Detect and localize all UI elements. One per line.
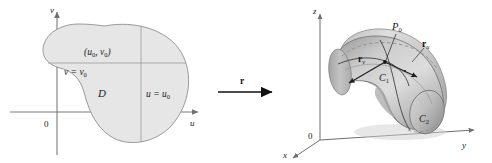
curve-C1-sub: 1 <box>386 77 389 84</box>
v-constant-text: v = v <box>64 67 84 77</box>
x-axis <box>293 140 320 158</box>
x-axis-label: x <box>282 150 287 160</box>
mapping-arrow-label: r <box>240 76 245 86</box>
svg-text:ru: ru <box>422 39 430 50</box>
tangent-rv-sub: v <box>362 58 365 65</box>
curve-C2-sub: 2 <box>426 118 429 125</box>
v-axis-label: v <box>50 5 54 15</box>
v-equals-v0-label: v = v0 <box>64 67 87 78</box>
region-D-shape <box>43 24 189 143</box>
point-P0-sub: 0 <box>398 26 401 33</box>
point-label-close: ) <box>106 47 110 58</box>
tangent-ru-sub: u <box>426 43 430 50</box>
mapping-arrow-group: r <box>218 76 272 92</box>
u-equals-u0-label: u = u0 <box>146 89 170 100</box>
right-origin-label: 0 <box>308 131 313 141</box>
surface-parametrization-figure: v u 0 (u0, v0) v = v0 D u = u0 <box>0 0 492 163</box>
z-axis-label: z <box>312 6 317 16</box>
right-panel-xyz-space: z y x 0 P0 rv ru <box>282 6 474 160</box>
left-panel-uv-plane: v u 0 (u0, v0) v = v0 D u = u0 <box>10 5 198 155</box>
u-constant-sub: 0 <box>167 93 170 100</box>
left-origin-label: 0 <box>44 119 49 129</box>
v-constant-sub: 0 <box>84 71 87 78</box>
svg-text:(u0, v0): (u0, v0) <box>84 47 111 58</box>
svg-text:u = u0: u = u0 <box>146 89 170 100</box>
u-constant-text: u = u <box>146 89 167 99</box>
tangent-ru-tick <box>404 70 406 72</box>
figure-canvas: v u 0 (u0, v0) v = v0 D u = u0 <box>0 0 492 163</box>
svg-text:P0: P0 <box>391 21 402 33</box>
u-axis-label: u <box>190 118 195 128</box>
point-P0-label: P0 <box>391 21 402 33</box>
tangent-ru-label: ru <box>422 39 430 50</box>
svg-text:v = v0: v = v0 <box>64 67 87 78</box>
region-D-label: D <box>97 87 106 99</box>
y-axis-label: y <box>461 140 466 150</box>
point-u0v0-label: (u0, v0) <box>84 47 111 58</box>
